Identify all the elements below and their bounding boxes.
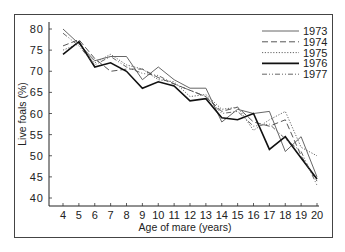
x-tick-label: 6 <box>92 209 98 221</box>
x-tick-label: 15 <box>232 209 244 221</box>
y-tick-label: 65 <box>30 86 44 98</box>
legend: 19731974197519761977 <box>262 25 327 80</box>
x-tick-label: 12 <box>184 209 196 221</box>
y-tick-label: 55 <box>30 129 44 141</box>
y-axis-label: Live foals (%) <box>16 82 28 146</box>
x-tick-label: 11 <box>168 209 179 221</box>
axes <box>49 22 319 206</box>
chart-frame <box>15 15 333 238</box>
x-tick-label: 17 <box>263 209 275 221</box>
x-tick-label: 16 <box>247 209 259 221</box>
y-tick-label: 40 <box>30 192 44 204</box>
x-tick-label: 7 <box>108 209 114 221</box>
x-tick-label: 5 <box>76 209 82 221</box>
legend-label: 1977 <box>303 68 327 80</box>
x-tick-label: 8 <box>123 209 129 221</box>
x-tick-label: 4 <box>60 209 66 221</box>
x-tick-label: 18 <box>279 209 291 221</box>
y-tick-label: 70 <box>30 65 44 77</box>
series-line-1973 <box>63 29 317 177</box>
y-tick-label: 50 <box>30 150 44 162</box>
series-line-1974 <box>63 40 317 182</box>
y-tick-label: 45 <box>30 171 44 183</box>
x-tick-label: 9 <box>139 209 145 221</box>
series-line-1976 <box>63 42 317 179</box>
y-tick-label: 80 <box>30 23 44 35</box>
x-tick-label: 20 <box>311 209 323 221</box>
series-line-1977 <box>63 33 317 185</box>
line-chart: 404550556065707580 456789101112131415161… <box>0 0 345 252</box>
x-tick-label: 14 <box>216 209 228 221</box>
x-axis-label: Age of mare (years) <box>139 221 232 233</box>
x-tick-label: 13 <box>200 209 212 221</box>
y-tick-label: 75 <box>30 44 44 56</box>
x-tick-label: 19 <box>295 209 307 221</box>
x-tick-label: 10 <box>152 209 164 221</box>
y-tick-label: 60 <box>30 108 44 120</box>
